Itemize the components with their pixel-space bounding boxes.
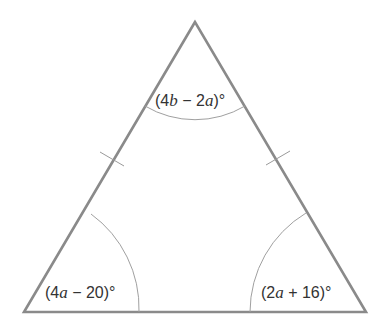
triangle-diagram: (4b − 2a)° (4a − 20)° (2a + 16)° — [0, 0, 377, 325]
bottom-right-angle-label: (2a + 16)° — [261, 284, 332, 301]
top-angle-label: (4b − 2a)° — [155, 92, 225, 109]
triangle-outline — [24, 22, 366, 312]
triangle-figure — [0, 0, 377, 325]
bottom-left-angle-label: (4a − 20)° — [45, 284, 116, 301]
